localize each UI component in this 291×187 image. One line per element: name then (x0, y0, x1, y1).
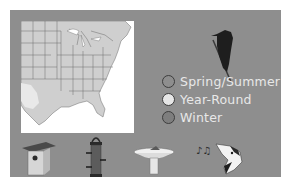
legend-label: Winter (180, 110, 222, 125)
us-map-icon (21, 21, 134, 133)
legend-item-spring-summer: Spring/Summer (162, 72, 280, 90)
year-round-swatch-icon (162, 93, 175, 106)
range-map (21, 21, 134, 133)
spring-summer-swatch-icon (162, 75, 175, 88)
winter-swatch-icon (162, 111, 175, 124)
season-legend: Spring/Summer Year-Round Winter (162, 72, 280, 126)
legend-item-year-round: Year-Round (162, 90, 280, 108)
birdhouse-icon (22, 140, 56, 176)
legend-label: Spring/Summer (180, 74, 280, 89)
legend-label: Year-Round (180, 92, 252, 107)
birdbath-icon (132, 142, 176, 176)
bird-song-icon: ♪♫ (196, 140, 248, 176)
range-map-panel: Spring/Summer Year-Round Winter (10, 10, 281, 177)
svg-text:♪♫: ♪♫ (196, 145, 211, 156)
tube-feeder-icon (84, 136, 108, 178)
legend-item-winter: Winter (162, 108, 280, 126)
